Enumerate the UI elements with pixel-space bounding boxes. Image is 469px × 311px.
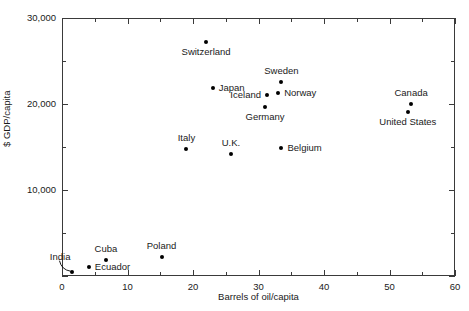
x-major-tick: [390, 270, 391, 276]
x-major-tick-top: [259, 18, 260, 24]
y-minor-tick: [62, 147, 66, 148]
data-point: [211, 86, 215, 90]
data-point-label: Switzerland: [182, 47, 231, 57]
data-point-label: Poland: [147, 241, 177, 251]
y-major-tick: [62, 190, 68, 191]
y-major-tick: [62, 276, 68, 277]
x-axis-label: Barrels of oil/capita: [62, 292, 455, 302]
y-tick-label: 20,000: [27, 99, 56, 109]
data-point-label: Cuba: [95, 244, 118, 254]
x-minor-tick: [291, 272, 292, 276]
x-minor-tick-top: [291, 18, 292, 22]
data-point-label: United States: [379, 117, 436, 127]
data-point-label: Belgium: [287, 143, 321, 153]
x-major-tick-top: [324, 18, 325, 24]
x-tick-label: 20: [188, 282, 199, 292]
x-minor-tick-top: [160, 18, 161, 22]
data-point-label: Ecuador: [95, 262, 130, 272]
x-minor-tick-top: [357, 18, 358, 22]
data-point: [87, 265, 91, 269]
data-point-label: Canada: [394, 88, 427, 98]
data-point-label: Iceland: [230, 91, 261, 101]
data-point-label: Italy: [178, 132, 195, 142]
y-minor-tick-right: [451, 61, 455, 62]
y-major-tick: [62, 104, 68, 105]
y-minor-tick-right: [451, 147, 455, 148]
scatter-chart-figure: 010203040506010,00020,00030,000 Switzerl…: [0, 0, 469, 311]
plot-area-frame: [62, 18, 455, 276]
data-point: [160, 255, 164, 259]
x-major-tick-top: [128, 18, 129, 24]
x-minor-tick: [95, 272, 96, 276]
x-minor-tick: [422, 272, 423, 276]
x-tick-label: 10: [122, 282, 133, 292]
y-major-tick-right: [449, 190, 455, 191]
x-minor-tick-top: [226, 18, 227, 22]
x-minor-tick: [226, 272, 227, 276]
y-minor-tick: [62, 61, 66, 62]
data-point: [229, 152, 233, 156]
x-tick-label: 40: [319, 282, 330, 292]
x-major-tick: [193, 270, 194, 276]
x-major-tick: [455, 270, 456, 276]
x-major-tick-top: [455, 18, 456, 24]
x-tick-label: 0: [59, 282, 64, 292]
y-major-tick-right: [449, 276, 455, 277]
x-minor-tick: [160, 272, 161, 276]
x-minor-tick: [357, 272, 358, 276]
y-major-tick-right: [449, 18, 455, 19]
x-minor-tick-top: [95, 18, 96, 22]
y-tick-label: 10,000: [27, 185, 56, 195]
y-major-tick-right: [449, 104, 455, 105]
x-major-tick-top: [390, 18, 391, 24]
data-point-label: Sweden: [264, 65, 298, 75]
x-tick-label: 60: [450, 282, 461, 292]
data-point: [263, 105, 267, 109]
data-point-label: Norway: [284, 88, 316, 98]
data-point-label: U.K.: [222, 137, 240, 147]
x-major-tick-top: [193, 18, 194, 24]
x-major-tick: [259, 270, 260, 276]
y-tick-label: 30,000: [27, 13, 56, 23]
x-minor-tick-top: [422, 18, 423, 22]
data-point: [406, 110, 410, 114]
data-point-label: India: [50, 252, 71, 262]
data-point: [276, 91, 280, 95]
y-minor-tick: [62, 233, 66, 234]
x-major-tick: [324, 270, 325, 276]
x-tick-label: 50: [384, 282, 395, 292]
y-axis-label: $ GDP/capita: [2, 91, 12, 148]
y-major-tick: [62, 18, 68, 19]
y-minor-tick-right: [451, 233, 455, 234]
data-point-label: Germany: [246, 112, 285, 122]
